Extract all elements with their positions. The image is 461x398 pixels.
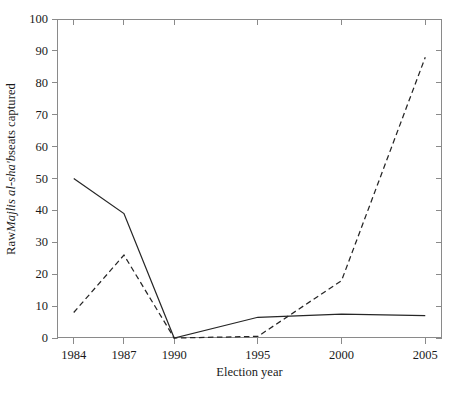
series-dashed-line: [74, 57, 426, 338]
data-series-layer: [0, 0, 461, 398]
series-solid-line: [74, 179, 426, 339]
chart-figure: Raw Majlis al-sha'b seats captured Elect…: [0, 0, 461, 398]
